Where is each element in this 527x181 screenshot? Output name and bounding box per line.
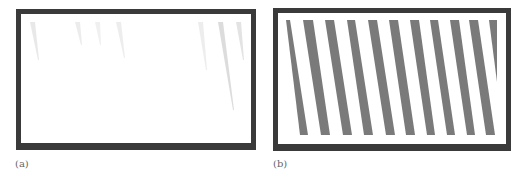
stripe <box>286 20 308 135</box>
stripe <box>325 20 352 135</box>
stripe <box>489 20 497 82</box>
stripe <box>430 20 455 135</box>
stripe <box>450 20 475 135</box>
stripe <box>368 20 395 135</box>
stripe <box>389 20 415 135</box>
panel-b-stripes <box>0 0 527 181</box>
stripe <box>410 20 435 135</box>
panel-b-caption: (b) <box>273 158 287 169</box>
stripe <box>469 20 495 135</box>
stripe <box>303 20 330 135</box>
stripe <box>347 20 373 135</box>
